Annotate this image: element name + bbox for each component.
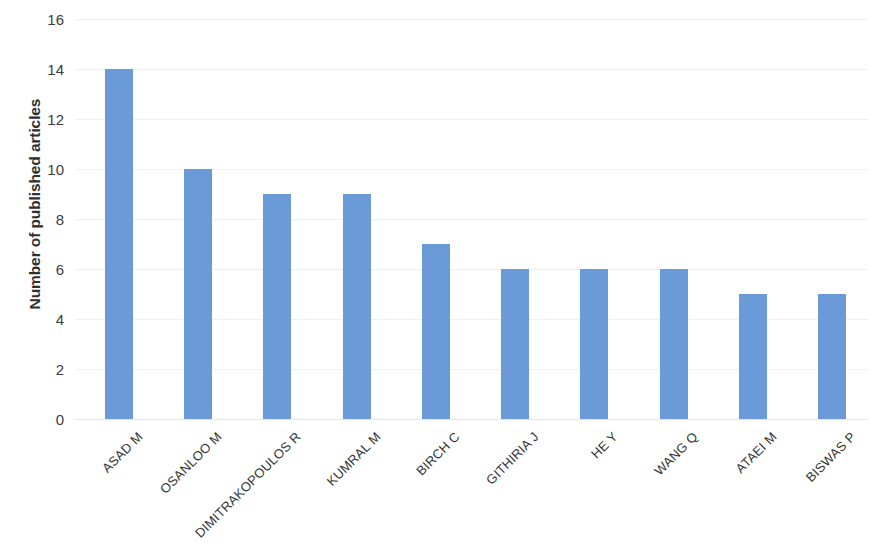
x-axis-tick-label: WANG Q <box>651 429 700 478</box>
y-axis-tick-labels: 1614121086420 <box>0 19 64 419</box>
y-axis-tick-label: 16 <box>6 12 64 27</box>
y-axis-tick-label: 14 <box>6 62 64 77</box>
plot-area <box>75 19 868 419</box>
x-axis-tick-label: OSANLOO M <box>157 429 225 497</box>
y-axis-tick-label: 10 <box>6 162 64 177</box>
x-axis-tick-label: BIRCH C <box>413 429 462 478</box>
y-axis-tick-label: 2 <box>6 362 64 377</box>
bar <box>263 194 291 419</box>
bar <box>343 194 371 419</box>
x-axis-tick-label: KUMRAL M <box>323 429 383 489</box>
bar <box>580 269 608 419</box>
y-axis-tick-label: 6 <box>6 262 64 277</box>
bar <box>739 294 767 419</box>
y-axis-tick-label: 12 <box>6 112 64 127</box>
x-axis-tick-label: ATAEI M <box>733 429 780 476</box>
bar <box>422 244 450 419</box>
y-axis-tick-label: 8 <box>6 212 64 227</box>
x-axis-tick-label: HE Y <box>589 429 621 461</box>
x-axis-tick-label: ASAD M <box>99 429 146 476</box>
bar <box>818 294 846 419</box>
gridline <box>75 419 868 420</box>
bar <box>184 169 212 419</box>
x-axis-tick-labels: ASAD MOSANLOO MDIMITRAKOPOULOS RKUMRAL M… <box>75 421 868 558</box>
bars <box>75 19 868 419</box>
bar <box>105 69 133 419</box>
bar-chart: Number of published articles 16141210864… <box>0 0 870 558</box>
y-axis-tick-label: 0 <box>6 412 64 427</box>
bar <box>660 269 688 419</box>
x-axis-tick-label: BISWAS P <box>803 429 859 485</box>
bar <box>501 269 529 419</box>
y-axis-tick-label: 4 <box>6 312 64 327</box>
x-axis-tick-label: GITHIRIA J <box>483 429 542 488</box>
